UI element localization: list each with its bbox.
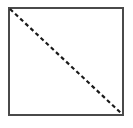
diagram-svg: [0, 0, 133, 128]
figure-canvas: [0, 0, 133, 128]
